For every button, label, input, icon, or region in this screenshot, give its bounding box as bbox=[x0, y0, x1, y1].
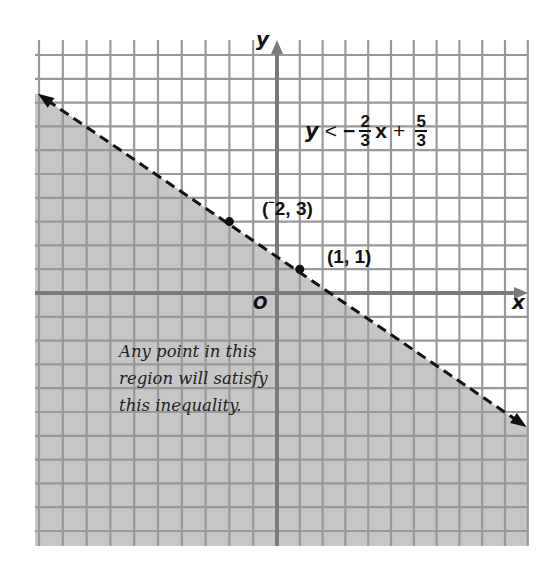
coordinate-grid bbox=[0, 0, 558, 574]
point-label-1-1: (1, 1) bbox=[327, 246, 371, 268]
negative-sign: − bbox=[343, 119, 355, 143]
plus-symbol: + bbox=[393, 119, 405, 143]
negative-sign: − bbox=[268, 196, 274, 208]
point-label-neg2-3: (−2, 3) bbox=[262, 198, 313, 220]
y-axis-label: y bbox=[256, 27, 269, 51]
intercept-fraction: 5 3 bbox=[415, 114, 427, 148]
inequality-var: x bbox=[375, 119, 387, 143]
y-axis-arrow-icon bbox=[271, 40, 283, 54]
point-neg2-3 bbox=[225, 217, 234, 226]
slope-fraction: 2 3 bbox=[359, 114, 371, 148]
region-annotation: Any point in this region will satisfy th… bbox=[119, 338, 268, 419]
x-axis-label: x bbox=[512, 290, 525, 314]
inequality-label: y < − 2 3 x + 5 3 bbox=[305, 114, 431, 148]
less-than-symbol: < bbox=[325, 119, 337, 143]
point-1-1 bbox=[295, 265, 304, 274]
inequality-graph: y x O (−2, 3) (1, 1) y < − 2 3 x + 5 3 A… bbox=[0, 0, 558, 574]
inequality-lhs: y bbox=[305, 119, 319, 143]
origin-label: O bbox=[253, 293, 267, 313]
shaded-solution-region bbox=[35, 94, 528, 546]
